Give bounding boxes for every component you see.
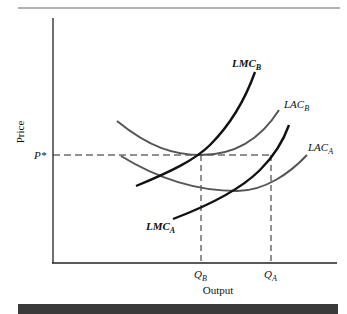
lac-b-label: LACB xyxy=(283,98,309,113)
lmc-a-label: LMCA xyxy=(145,220,176,235)
lac-a-curve xyxy=(121,155,307,191)
lac-a-label: LACA xyxy=(307,141,333,156)
lac-b-curve xyxy=(117,110,279,155)
qa-tick-label: QA xyxy=(264,268,277,283)
cost-curves-chart: LMCB LACB LACA LMCA P* QB QA Output Pric… xyxy=(0,0,347,314)
qb-tick-label: QB xyxy=(194,268,207,283)
caption-bar xyxy=(18,304,338,314)
p-star-tick-label: P* xyxy=(33,149,47,161)
lmc-a-curve xyxy=(173,125,289,219)
x-axis-title: Output xyxy=(203,284,234,296)
lmc-b-label: LMCB xyxy=(231,57,262,72)
lmc-b-curve xyxy=(136,72,255,186)
y-axis-title: Price xyxy=(14,121,26,144)
